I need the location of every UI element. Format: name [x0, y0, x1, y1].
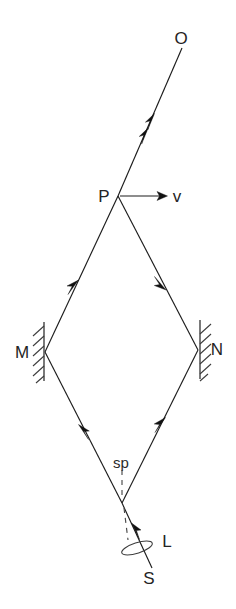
label-velocity-v: v: [173, 187, 182, 206]
label-mirror-M: M: [15, 343, 29, 362]
mirror-N-hatching: [200, 324, 211, 381]
beam-path-sp-to-m: [45, 352, 122, 503]
ray-segment-p-n: [118, 196, 198, 350]
lens-group: [120, 538, 154, 558]
label-lens-L: L: [162, 532, 171, 551]
ray-segment-sp-n: [122, 350, 198, 503]
arrowhead-p-o-upper: [145, 114, 154, 130]
arrowhead-p-o-lower: [139, 128, 148, 144]
ray-segment-s-sp: [122, 503, 152, 568]
label-mirror-N: N: [211, 340, 223, 359]
mirror-M-hatching: [33, 326, 44, 383]
ray-segment-m-p: [45, 196, 118, 352]
arrowhead-sp-n: [154, 418, 165, 433]
diagram-canvas: O P v M N sp L S: [0, 0, 236, 609]
beam-path-s-to-sp: [122, 503, 152, 568]
optics-diagram-figure: O P v M N sp L S: [0, 0, 236, 609]
arrowhead-s-sp: [132, 523, 142, 540]
mirror-N-group: [200, 320, 211, 381]
label-observer-O: O: [174, 29, 187, 48]
arrowhead-sp-m: [79, 425, 90, 440]
label-source-S: S: [143, 569, 154, 588]
beam-path-p-to-n: [118, 196, 198, 350]
label-splitter-plate-sp: sp: [113, 454, 129, 471]
label-point-P: P: [98, 187, 109, 206]
beam-path-m-to-p: [45, 196, 118, 352]
beam-path-sp-to-n: [122, 350, 198, 503]
mirror-M-group: [33, 322, 44, 383]
arrowhead-p-n: [154, 277, 166, 291]
beam-path-p-to-o: [118, 48, 182, 196]
lens-icon: [120, 538, 154, 558]
velocity-vector-group: [120, 192, 168, 201]
